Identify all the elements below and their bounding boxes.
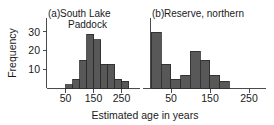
bar (210, 75, 220, 88)
y-tick-label-10: 10 (28, 63, 40, 75)
bar (87, 34, 94, 88)
bar (171, 79, 181, 88)
bar (73, 79, 80, 88)
panel-b-bars (151, 32, 229, 88)
histogram-figure: 30 20 10 Frequency 50 150 250 (a) South … (0, 0, 274, 125)
panel-b-title-tag: (b) (152, 8, 164, 19)
bar (122, 81, 129, 88)
bar (94, 40, 101, 89)
panel-a: 50 150 250 (a) South Lake Paddock (47, 8, 141, 104)
bar (115, 79, 122, 88)
y-axis-label: Frequency (6, 27, 18, 77)
panel-a-x-tick-label-50: 50 (60, 92, 72, 104)
y-axis-group: 30 20 10 Frequency (6, 18, 47, 88)
x-axis-label: Estimated age in years (92, 109, 199, 121)
bar (80, 60, 87, 88)
panel-a-bars (66, 34, 129, 88)
bar (220, 81, 230, 88)
panel-a-title-line1: South Lake (60, 8, 111, 19)
bar (161, 64, 171, 88)
panel-a-x-tick-label-250: 250 (113, 92, 131, 104)
panel-a-x-tick-label-150: 150 (85, 92, 103, 104)
figure-container: 30 20 10 Frequency 50 150 250 (a) South … (0, 0, 274, 125)
bar (108, 64, 115, 88)
panel-b: 50 150 250 (b) Reserve, northern (143, 8, 266, 104)
bar (190, 51, 200, 88)
y-tick-label-30: 30 (28, 26, 40, 38)
bar (101, 64, 108, 88)
panel-b-x-tick-label-50: 50 (165, 92, 177, 104)
panel-b-x-tick-label-150: 150 (201, 92, 219, 104)
bar (200, 60, 210, 88)
panel-a-title-tag: (a) (48, 8, 60, 19)
panel-b-title-line1: Reserve, northern (164, 8, 244, 19)
bar (66, 85, 73, 89)
bar (151, 32, 161, 88)
y-tick-label-20: 20 (28, 44, 40, 56)
panel-a-title-line2: Paddock (68, 19, 108, 30)
panel-b-x-tick-label-250: 250 (240, 92, 258, 104)
bar (181, 75, 191, 88)
